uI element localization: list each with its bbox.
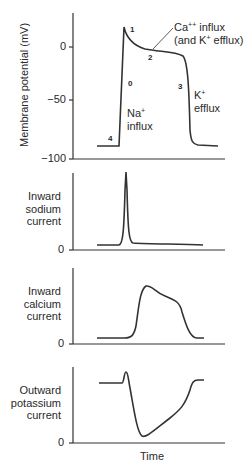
ca-influx-annotation: Ca++ influx (and K+ efflux): [174, 21, 243, 46]
potassium-zero-tick: 0: [34, 436, 64, 448]
phase-2-label: 2: [148, 53, 152, 62]
na-influx-annotation: Na+ influx: [127, 107, 153, 132]
sodium-current-curve: [97, 172, 203, 245]
phase-1-label: 1: [130, 25, 134, 34]
phase-3-label: 3: [178, 82, 182, 91]
phase-0-label: 0: [128, 79, 132, 88]
sodium-zero-tick: 0: [34, 243, 64, 255]
calcium-label: Inward calcium current: [10, 285, 61, 323]
y-tick-0: 0: [36, 40, 66, 52]
potassium-current-curve: [99, 372, 204, 436]
y-axis-label: Membrane potential (mV): [18, 23, 30, 147]
y-tick-minus100: −100: [36, 152, 66, 164]
figure: Membrane potential (mV) 0 −50 −100 1 2 0…: [0, 0, 249, 468]
potassium-label: Outward potassium current: [4, 384, 61, 422]
k-efflux-annotation: K+ efflux: [194, 89, 220, 114]
phase-4-label: 4: [108, 134, 112, 143]
y-tick-minus50: −50: [36, 93, 66, 105]
sodium-label: Inward sodium current: [10, 190, 61, 228]
calcium-zero-tick: 0: [34, 337, 64, 349]
calcium-current-curve: [97, 286, 204, 338]
x-axis-label: Time: [140, 450, 164, 463]
